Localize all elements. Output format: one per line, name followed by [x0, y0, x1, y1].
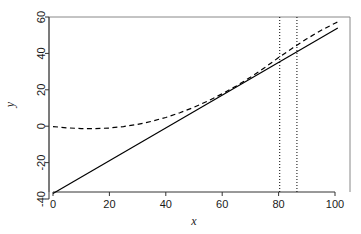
x-tick-label-60: 60: [216, 198, 228, 210]
y-tick-label-0: 0: [35, 123, 47, 129]
y-tick-label-60: 60: [35, 11, 47, 23]
y-tick-label--40: -40: [35, 191, 47, 207]
y-tick-label-20: 20: [35, 84, 47, 96]
y-tick-label-40: 40: [35, 47, 47, 59]
x-tick-label-100: 100: [326, 198, 344, 210]
x-axis: 020406080100: [50, 192, 344, 210]
x-tick-label-80: 80: [272, 198, 284, 210]
y-axis-ticks: [45, 17, 49, 199]
x-tick-label-20: 20: [103, 198, 115, 210]
y-tick-label--20: -20: [35, 155, 47, 171]
series-solid-line: [53, 28, 338, 194]
y-axis: -40-200204060: [35, 11, 49, 207]
chart-canvas: -40-200204060 020406080100 x y: [0, 0, 361, 234]
vertical-reference-lines: [280, 17, 297, 192]
x-axis-tick-labels: 020406080100: [50, 198, 344, 210]
y-axis-title: y: [3, 101, 17, 108]
data-series-layer: [53, 22, 338, 194]
x-tick-label-0: 0: [50, 198, 56, 210]
x-axis-ticks: [53, 192, 335, 196]
x-tick-label-40: 40: [160, 198, 172, 210]
x-axis-title: x: [190, 214, 197, 228]
y-axis-tick-labels: -40-200204060: [35, 11, 47, 207]
plot-svg: -40-200204060 020406080100 x y: [0, 0, 361, 234]
plot-box-border: [49, 17, 350, 192]
series-dashed-curve: [53, 22, 338, 129]
plot-frame: [49, 17, 350, 192]
